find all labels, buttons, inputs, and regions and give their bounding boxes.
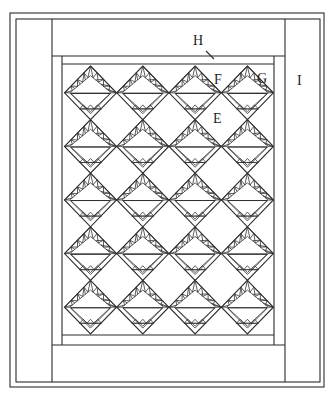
basket-blocks-grid (65, 66, 274, 334)
basket-block (169, 173, 221, 227)
basket-block (117, 280, 169, 334)
label-h-leader-line (206, 51, 214, 59)
basket-block (117, 227, 169, 281)
basket-block (221, 227, 273, 281)
label-f: F (214, 73, 222, 87)
label-g: G (257, 72, 267, 86)
quilt-diagram (0, 0, 327, 397)
basket-block (65, 173, 117, 227)
basket-block (65, 120, 117, 174)
basket-block (169, 280, 221, 334)
label-h: H (193, 34, 203, 48)
basket-block (117, 66, 169, 120)
basket-block (169, 120, 221, 174)
basket-block (65, 280, 117, 334)
basket-block (221, 120, 273, 174)
basket-block (221, 280, 273, 334)
basket-block (65, 227, 117, 281)
basket-block (117, 173, 169, 227)
basket-block (65, 66, 117, 120)
label-i: I (297, 74, 302, 88)
basket-block (221, 173, 273, 227)
label-e: E (213, 112, 222, 126)
basket-block (117, 120, 169, 174)
basket-block (169, 227, 221, 281)
